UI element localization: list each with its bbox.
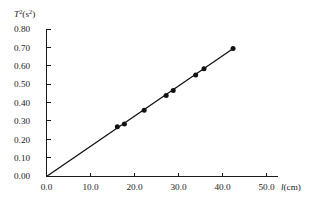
y-tick-label: 0.10 (14, 153, 30, 163)
x-tick-label: 20.0 (126, 182, 142, 192)
y-tick-label: 0.80 (14, 24, 30, 34)
data-point (164, 93, 169, 98)
data-point (171, 88, 176, 93)
y-tick-label: 0.00 (14, 171, 30, 181)
figure-container: T2(s2) 0.80 0.70 0.60 0.50 0.40 0.30 0.2… (0, 0, 318, 210)
y-tick-label: 0.20 (14, 135, 30, 145)
scatter-plot: T2(s2) 0.80 0.70 0.60 0.50 0.40 0.30 0.2… (0, 0, 318, 210)
x-tick-label: 0.0 (41, 182, 53, 192)
data-series-layer (47, 46, 236, 176)
x-tick-label: 40.0 (214, 182, 230, 192)
data-point (231, 46, 236, 51)
y-tick-label: 0.70 (14, 43, 30, 53)
data-point (142, 108, 147, 113)
y-tick-label: 0.40 (14, 98, 30, 108)
y-tick-label: 0.50 (14, 79, 30, 89)
x-tick-label: 10.0 (82, 182, 98, 192)
x-tick-label: 30.0 (170, 182, 186, 192)
x-tick-label: 50.0 (258, 182, 274, 192)
y-axis-title: T2(s2) (14, 8, 35, 19)
data-point (115, 124, 120, 129)
y-tick-label: 0.60 (14, 61, 30, 71)
x-axis-title: l(cm) (281, 182, 301, 192)
y-tick-label: 0.30 (14, 116, 30, 126)
data-point (193, 72, 198, 77)
data-point (122, 122, 127, 127)
data-point (202, 66, 207, 71)
